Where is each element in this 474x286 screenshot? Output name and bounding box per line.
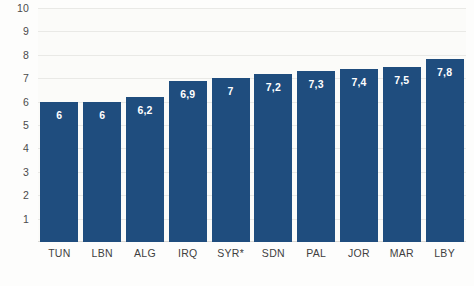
bar-mar[interactable]: 7,5 <box>383 67 421 243</box>
bar-value-label: 7,4 <box>340 76 378 88</box>
y-axis: 12345678910 <box>0 0 38 250</box>
x-axis-tick-mar: MAR <box>380 247 423 259</box>
bar-value-label: 6 <box>40 109 78 121</box>
y-axis-tick-6: 6 <box>23 96 29 108</box>
y-axis-tick-9: 9 <box>23 25 29 37</box>
y-axis-tick-7: 7 <box>23 72 29 84</box>
x-axis-tick-lby: LBY <box>423 247 466 259</box>
bar-irq[interactable]: 6,9 <box>169 81 207 242</box>
bar-jor[interactable]: 7,4 <box>340 69 378 242</box>
x-axis: TUNLBNALGIRQSYR*SDNPALJORMARLBY <box>38 247 466 269</box>
y-axis-tick-2: 2 <box>23 189 29 201</box>
x-axis-tick-syr: SYR* <box>209 247 252 259</box>
x-axis-tick-sdn: SDN <box>252 247 295 259</box>
bar-value-label: 6,9 <box>169 88 207 100</box>
bar-chart: 12345678910 666,26,977,27,37,47,57,8 TUN… <box>0 0 474 286</box>
bar-lby[interactable]: 7,8 <box>426 59 464 242</box>
bar-value-label: 6,2 <box>126 104 164 116</box>
bar-pal[interactable]: 7,3 <box>297 71 335 242</box>
bar-lbn[interactable]: 6 <box>83 102 121 242</box>
y-axis-tick-8: 8 <box>23 49 29 61</box>
y-axis-tick-3: 3 <box>23 166 29 178</box>
x-axis-tick-jor: JOR <box>338 247 381 259</box>
bar-value-label: 7,2 <box>254 81 292 93</box>
x-axis-tick-pal: PAL <box>295 247 338 259</box>
y-axis-tick-10: 10 <box>17 2 29 14</box>
bar-value-label: 7,8 <box>426 66 464 78</box>
y-axis-tick-1: 1 <box>23 213 29 225</box>
x-axis-tick-alg: ALG <box>124 247 167 259</box>
x-axis-tick-tun: TUN <box>38 247 81 259</box>
x-axis-tick-lbn: LBN <box>81 247 124 259</box>
bar-tun[interactable]: 6 <box>40 102 78 242</box>
bar-syr[interactable]: 7 <box>212 78 250 242</box>
y-axis-tick-4: 4 <box>23 142 29 154</box>
bars-layer: 666,26,977,27,37,47,57,8 <box>38 8 466 242</box>
bar-value-label: 6 <box>83 109 121 121</box>
bar-value-label: 7 <box>212 85 250 97</box>
bar-value-label: 7,5 <box>383 74 421 86</box>
bar-value-label: 7,3 <box>297 78 335 90</box>
x-axis-tick-irq: IRQ <box>166 247 209 259</box>
bar-sdn[interactable]: 7,2 <box>254 74 292 242</box>
plot-area: 666,26,977,27,37,47,57,8 <box>38 8 466 242</box>
bar-alg[interactable]: 6,2 <box>126 97 164 242</box>
y-axis-tick-5: 5 <box>23 119 29 131</box>
